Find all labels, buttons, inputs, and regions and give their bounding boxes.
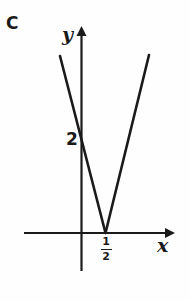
y-axis-label: y	[62, 25, 73, 44]
fraction-numerator: 1	[102, 236, 110, 248]
absolute-value-curve-right-branch	[106, 55, 150, 233]
vertex-label: 1 2	[98, 236, 114, 263]
x-axis-label: x	[157, 236, 168, 255]
fraction-one-half: 1 2	[101, 236, 112, 263]
fraction-denominator: 2	[102, 251, 110, 263]
math-figure: C y x 2 1 2	[0, 0, 190, 301]
axes-group	[24, 26, 175, 271]
y-axis-arrowhead	[77, 26, 87, 36]
part-label: C	[6, 15, 18, 32]
y-intercept-label: 2	[66, 131, 78, 148]
